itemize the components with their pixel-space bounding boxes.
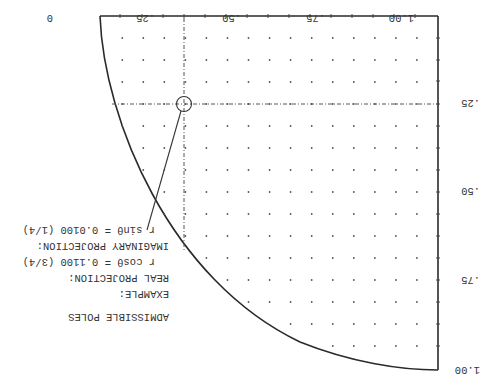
x-tick-75: .75	[306, 12, 325, 24]
y-tick-100: 1.00	[455, 364, 480, 376]
y-tick-75: .75	[461, 274, 480, 286]
figure-title: ADMISSIBLE POLES	[68, 310, 169, 324]
x-tick-100: 1.00	[389, 12, 414, 24]
x-tick-25: .25	[136, 12, 155, 24]
real-projection-formula: r cosθ = 0.1100 (3/4)	[23, 255, 155, 269]
example-heading: EXAMPLE:	[119, 287, 169, 301]
real-projection-label: REAL PROJECTION:	[68, 271, 169, 285]
imaginary-projection-label: IMAGINARY PROJECTION:	[37, 239, 169, 253]
x-tick-0: 0	[47, 12, 53, 24]
y-tick-50: .50	[461, 185, 480, 197]
imaginary-projection-formula: r sinθ = 0.0100 (1/4)	[23, 223, 155, 237]
x-tick-50: .50	[222, 12, 241, 24]
rotated-text-layer: 0 .25 .50 .75 1.00 .25 .50 .75 1.00 ADMI…	[0, 0, 489, 390]
y-tick-25: .25	[461, 97, 480, 109]
